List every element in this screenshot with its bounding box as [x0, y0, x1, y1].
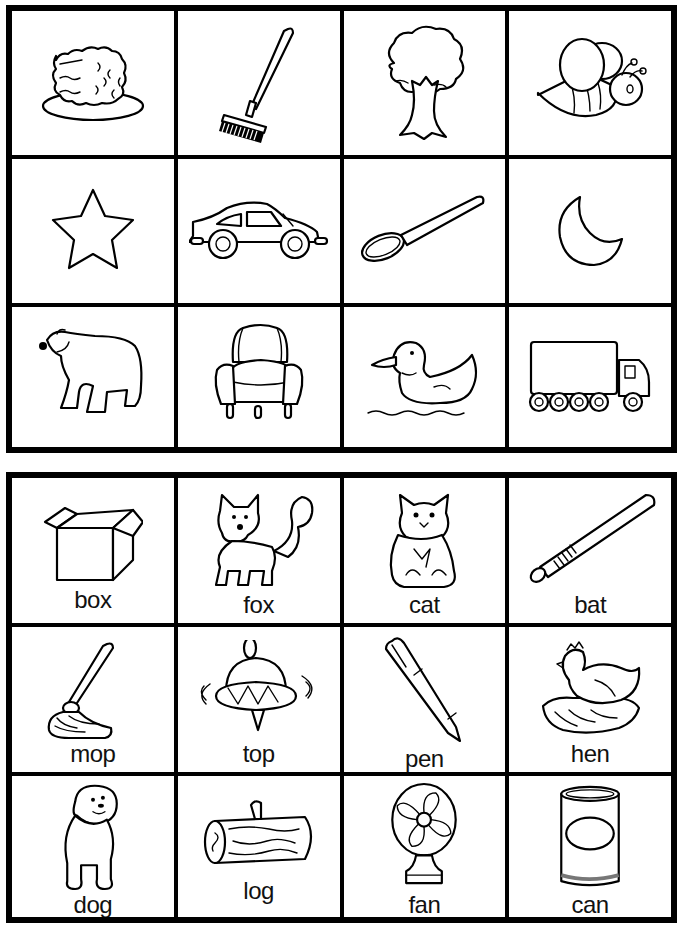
word-label: box: [74, 588, 111, 612]
picture-card-moon[interactable]: [509, 159, 671, 303]
cat-icon: [384, 491, 464, 591]
dog-icon: [53, 782, 133, 891]
bear-icon: [33, 322, 153, 432]
picture-card-bear[interactable]: [12, 307, 174, 447]
word-label: log: [243, 879, 274, 903]
moon-icon: [550, 191, 630, 271]
picture-card-bee[interactable]: [509, 11, 671, 155]
picture-card-tree[interactable]: [344, 11, 506, 155]
word-label: dog: [74, 893, 113, 917]
can-icon: [555, 782, 625, 891]
picture-card-duck[interactable]: [344, 307, 506, 447]
fox-icon: [204, 491, 314, 591]
box-icon: [43, 496, 143, 586]
bee-icon: [530, 33, 650, 133]
word-label: fan: [408, 893, 440, 917]
cake-icon: [38, 38, 148, 128]
picture-grid: [6, 5, 677, 453]
word-grid: box fox cat bat: [6, 472, 677, 923]
picture-card-rake[interactable]: [178, 11, 340, 155]
word-label: can: [572, 893, 609, 917]
pen-icon: [374, 635, 474, 745]
chair-icon: [209, 322, 309, 432]
log-icon: [199, 797, 319, 877]
word-card-mop[interactable]: mop: [12, 627, 174, 772]
word-label: cat: [409, 593, 440, 617]
bat-icon: [520, 491, 660, 591]
fan-icon: [384, 782, 464, 891]
word-card-bat[interactable]: bat: [509, 478, 671, 623]
word-label: mop: [70, 742, 115, 766]
word-label: top: [243, 742, 275, 766]
word-card-fox[interactable]: fox: [178, 478, 340, 623]
word-card-top[interactable]: top: [178, 627, 340, 772]
word-card-box[interactable]: box: [12, 478, 174, 623]
word-card-pen[interactable]: pen: [344, 627, 506, 772]
word-label: hen: [571, 742, 610, 766]
picture-card-truck[interactable]: [509, 307, 671, 447]
duck-icon: [364, 327, 484, 427]
car-icon: [189, 196, 329, 266]
star-icon: [43, 186, 143, 276]
word-label: fox: [243, 593, 274, 617]
word-card-log[interactable]: log: [178, 776, 340, 917]
word-label: bat: [574, 593, 606, 617]
word-card-cat[interactable]: cat: [344, 478, 506, 623]
word-label: pen: [405, 747, 444, 771]
word-card-dog[interactable]: dog: [12, 776, 174, 917]
top-icon: [194, 640, 324, 740]
picture-card-spoon[interactable]: [344, 159, 506, 303]
word-card-hen[interactable]: hen: [509, 627, 671, 772]
picture-card-car[interactable]: [178, 159, 340, 303]
tree-icon: [374, 23, 474, 143]
truck-icon: [525, 332, 655, 422]
rake-icon: [204, 23, 314, 143]
picture-card-chair[interactable]: [178, 307, 340, 447]
mop-icon: [43, 640, 143, 740]
spoon-icon: [359, 191, 489, 271]
word-card-fan[interactable]: fan: [344, 776, 506, 917]
picture-card-cake[interactable]: [12, 11, 174, 155]
picture-card-star[interactable]: [12, 159, 174, 303]
hen-icon: [535, 640, 645, 740]
word-card-can[interactable]: can: [509, 776, 671, 917]
